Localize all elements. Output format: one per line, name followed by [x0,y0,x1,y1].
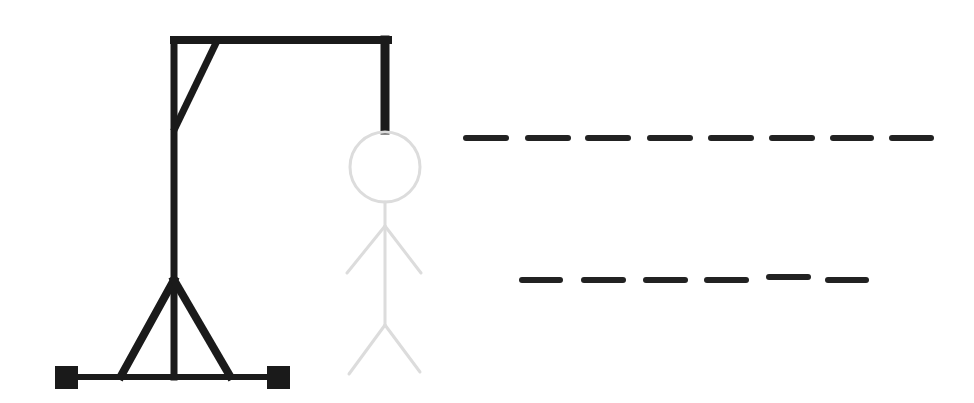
letter-slot [766,274,811,280]
letter-slot [519,277,563,283]
blank-dash [889,135,934,141]
letter-slot [889,135,934,141]
figure-left-arm [347,226,385,273]
letter-slot [769,135,815,141]
blank-dash [463,135,509,141]
gallows-left-strut [121,280,174,376]
figure-right-leg [385,325,420,372]
gallows-right-strut [174,280,230,376]
letter-slot [825,277,869,283]
letter-slot [525,135,571,141]
letter-slot [708,135,754,141]
blank-dash [825,277,869,283]
blank-dash [581,277,626,283]
word-row-2 [519,277,869,283]
figure-head [350,132,420,202]
letter-slot [704,277,749,283]
letter-slot [585,135,631,141]
blank-dash [766,274,811,280]
hangman-game [0,0,974,403]
gallows-right-foot [267,366,290,389]
figure-right-arm [385,226,421,273]
blank-dash [643,277,688,283]
blank-dash [647,135,693,141]
letter-slot [581,277,626,283]
gallows [55,40,388,389]
gallows-left-foot [55,366,78,389]
blank-dash [585,135,631,141]
blank-dash [704,277,749,283]
gallows-brace [175,41,217,128]
letter-slot [830,135,874,141]
hangman-drawing [0,0,974,403]
letter-slot [647,135,693,141]
stick-figure [347,132,421,374]
letter-slot [463,135,509,141]
blank-dash [525,135,571,141]
blank-dash [519,277,563,283]
blank-dash [830,135,874,141]
letter-slot [643,277,688,283]
figure-left-leg [349,325,385,374]
blank-dash [708,135,754,141]
blank-dash [769,135,815,141]
word-row-1 [463,135,934,141]
